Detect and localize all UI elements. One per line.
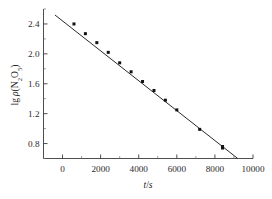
y-tick-label: 2.4 — [28, 19, 40, 29]
x-tick-label: 4000 — [130, 164, 149, 174]
data-point-marker — [141, 80, 144, 83]
axis-frame — [44, 9, 254, 159]
chart-figure: 0200040006000800010000 0.81.21.62.02.4 t… — [0, 0, 272, 199]
x-tick-label: 0 — [60, 164, 65, 174]
y-tick-label: 1.6 — [28, 79, 40, 89]
data-point-marker — [107, 51, 110, 54]
x-tick-label: 8000 — [206, 164, 225, 174]
x-axis-tick-labels: 0200040006000800010000 — [60, 164, 265, 174]
data-point-marker — [84, 32, 87, 35]
data-point-marker — [72, 22, 75, 25]
y-tick-label: 2.0 — [28, 49, 40, 59]
data-point-marker — [118, 61, 121, 64]
x-tick-label: 2000 — [91, 164, 110, 174]
y-tick-label: 1.2 — [28, 109, 40, 119]
data-point-marker — [221, 145, 224, 148]
regression-line — [55, 15, 238, 159]
y-tick-label: 0.8 — [28, 139, 40, 149]
x-tick-label: 10000 — [242, 164, 265, 174]
data-point-marker — [198, 128, 201, 131]
y-axis-title: lg ρ(N2O5) — [9, 65, 23, 106]
chart-svg: 0200040006000800010000 0.81.21.62.02.4 t… — [0, 0, 272, 199]
y-axis-ticks — [44, 9, 48, 159]
data-point-marker — [130, 70, 133, 73]
y-axis-tick-labels: 0.81.21.62.02.4 — [28, 19, 40, 149]
data-point-marker — [152, 89, 155, 92]
fit-line — [55, 15, 238, 159]
x-axis-title: t/s — [143, 179, 152, 190]
data-point-marker — [164, 99, 167, 102]
x-axis-ticks — [63, 155, 253, 159]
data-point-marker — [175, 108, 178, 111]
x-tick-label: 6000 — [168, 164, 187, 174]
data-point-marker — [95, 41, 98, 44]
